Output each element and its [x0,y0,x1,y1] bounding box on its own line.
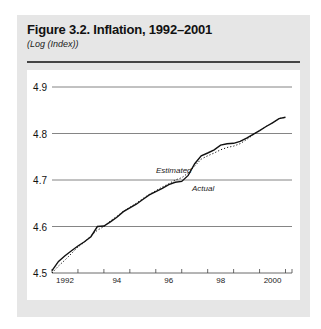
line-chart: 4.54.64.74.84.9 19929496982000 Estimated… [0,0,321,329]
annotation-estimated: Estimated [156,166,192,175]
x-tick-label: 1992 [56,276,74,285]
annotation-actual: Actual [191,184,214,193]
x-tick-label: 98 [216,276,225,285]
data-lines [52,117,286,273]
y-tick-label: 4.6 [33,222,47,233]
x-tick-label: 96 [164,276,173,285]
y-axis-labels: 4.54.64.74.84.9 [33,82,47,279]
gridlines [52,87,292,227]
y-tick-label: 4.7 [33,175,47,186]
y-tick-label: 4.5 [33,268,47,279]
series-actual [52,117,286,271]
x-tick-label: 2000 [264,276,282,285]
series-estimated [52,117,286,273]
x-axis: 19929496982000 [52,269,292,285]
x-tick-label: 94 [112,276,121,285]
y-tick-label: 4.8 [33,129,47,140]
y-tick-label: 4.9 [33,82,47,93]
